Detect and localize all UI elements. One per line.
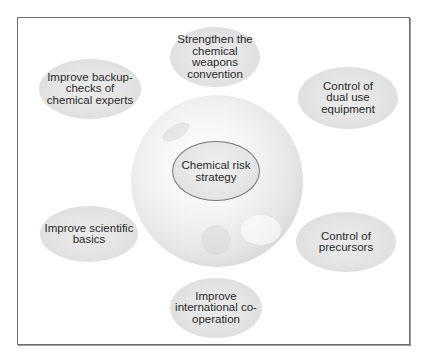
node-international-cooperation: Improve international co- operation (170, 278, 262, 338)
node-precursors: Control of precursors (296, 212, 396, 272)
center-node-chemical-risk-strategy: Chemical risk strategy (172, 141, 260, 201)
globe-landmass (241, 215, 281, 245)
node-dual-use-equipment: Control of dual use equipment (298, 67, 398, 129)
node-label: Improve backup- checks of chemical exper… (47, 72, 133, 107)
node-label: Improve international co- operation (175, 291, 257, 326)
node-backup-checks: Improve backup- checks of chemical exper… (39, 59, 141, 119)
node-label: Control of precursors (319, 231, 373, 254)
node-label: Improve scientific basics (45, 223, 134, 246)
center-node-label: Chemical risk strategy (181, 159, 250, 183)
node-scientific-basics: Improve scientific basics (40, 206, 138, 262)
globe-landmass (160, 118, 193, 145)
node-label: Control of dual use equipment (321, 81, 375, 116)
node-label: Strengthen the chemical weapons conventi… (177, 34, 252, 80)
node-strengthen-cwc: Strengthen the chemical weapons conventi… (170, 27, 260, 87)
globe-landmass (201, 225, 231, 255)
